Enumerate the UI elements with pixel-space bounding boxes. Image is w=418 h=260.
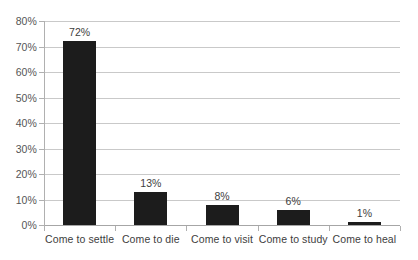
x-axis-category-label: Come to heal bbox=[329, 233, 400, 253]
bar-slot: 72% bbox=[44, 21, 115, 225]
x-axis-tick-mark bbox=[115, 226, 116, 231]
bar-value-label: 72% bbox=[44, 27, 115, 38]
bar bbox=[348, 222, 381, 225]
bar bbox=[206, 205, 239, 225]
x-axis-category-label: Come to settle bbox=[44, 233, 115, 253]
bar-value-label: 13% bbox=[115, 178, 186, 189]
x-axis-tick-mark bbox=[400, 226, 401, 231]
y-axis-tick-mark bbox=[39, 174, 44, 175]
bar-value-label: 1% bbox=[329, 208, 400, 219]
y-axis-tick-labels: 80%70%60%50%40%30%20%10%0% bbox=[0, 0, 37, 260]
y-axis-tick-label: 0% bbox=[1, 220, 37, 230]
x-axis-category-label: Come to study bbox=[258, 233, 329, 253]
bar bbox=[63, 41, 96, 225]
x-axis-category-label: Come to visit bbox=[186, 233, 257, 253]
y-axis-tick-mark bbox=[39, 98, 44, 99]
y-axis-tick-label: 40% bbox=[1, 118, 37, 128]
y-axis-tick-label: 60% bbox=[1, 67, 37, 77]
bar-value-label: 8% bbox=[186, 191, 257, 202]
bar bbox=[134, 192, 167, 225]
y-axis-tick-mark bbox=[39, 21, 44, 22]
x-axis-tick-marks bbox=[44, 226, 400, 231]
bar-chart: 80%70%60%50%40%30%20%10%0% 72%13%8%6%1% … bbox=[0, 0, 418, 260]
bar-value-label: 6% bbox=[258, 196, 329, 207]
x-axis-tick-mark bbox=[329, 226, 330, 231]
y-axis-tick-mark bbox=[39, 225, 44, 226]
x-axis-tick-mark bbox=[186, 226, 187, 231]
y-axis-tick-label: 20% bbox=[1, 169, 37, 179]
bar bbox=[277, 210, 310, 225]
y-axis-tick-mark bbox=[39, 200, 44, 201]
bar-slot: 1% bbox=[329, 21, 400, 225]
y-axis-tick-label: 70% bbox=[1, 42, 37, 52]
y-axis-tick-label: 50% bbox=[1, 93, 37, 103]
y-axis-tick-mark bbox=[39, 149, 44, 150]
x-axis-tick-mark bbox=[44, 226, 45, 231]
bar-slot: 8% bbox=[186, 21, 257, 225]
x-axis-category-labels: Come to settleCome to dieCome to visitCo… bbox=[44, 233, 400, 253]
y-axis-tick-mark bbox=[39, 47, 44, 48]
y-axis-tick-mark bbox=[39, 72, 44, 73]
y-axis-tick-mark bbox=[39, 123, 44, 124]
y-axis-tick-label: 80% bbox=[1, 16, 37, 26]
y-axis-tick-label: 30% bbox=[1, 144, 37, 154]
y-axis-tick-label: 10% bbox=[1, 195, 37, 205]
x-axis-tick-mark bbox=[258, 226, 259, 231]
bar-slot: 6% bbox=[258, 21, 329, 225]
bar-slot: 13% bbox=[115, 21, 186, 225]
x-axis-category-label: Come to die bbox=[115, 233, 186, 253]
bar-series: 72%13%8%6%1% bbox=[44, 21, 400, 225]
